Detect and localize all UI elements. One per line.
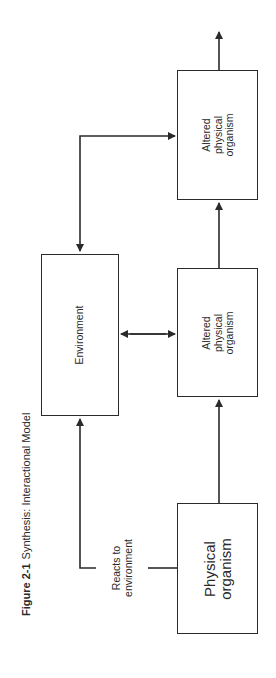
altered-organism-box-2: Altered physical organism	[177, 70, 258, 200]
altered-organism-label-1: Altered physical organism	[200, 311, 235, 354]
physical-organism-label: Physical organism	[202, 538, 234, 600]
reacts-to-environment-label: Reacts to environment	[111, 539, 134, 597]
figure-title: Synthesis: Interactional Model	[20, 413, 32, 560]
physical-organism-box: Physical organism	[177, 503, 258, 634]
diagram-canvas: Environment Physical organism Altered ph…	[0, 0, 276, 678]
figure-caption: Figure 2-1Synthesis: Interactional Model	[20, 413, 32, 616]
arrow-environment-altered-2-bidirectional	[80, 136, 175, 140]
arrow-reacts-to-environment-b	[80, 419, 96, 568]
altered-organism-label-2: Altered physical organism	[200, 113, 235, 156]
altered-organism-box-1: Altered physical organism	[177, 268, 258, 397]
environment-box: Environment	[41, 254, 119, 416]
figure-number: Figure 2-1	[20, 563, 32, 616]
environment-label: Environment	[74, 306, 86, 365]
